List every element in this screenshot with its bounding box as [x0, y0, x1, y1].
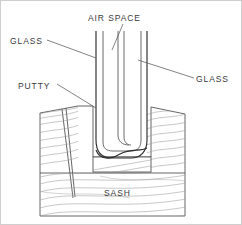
label-glass-left: GLASS	[10, 36, 43, 46]
label-air-space: AIR SPACE	[88, 13, 141, 23]
label-glass-right: GLASS	[196, 74, 229, 84]
glazing-bead	[93, 157, 151, 172]
label-putty: PUTTY	[18, 81, 50, 91]
glass-outer-pane-inner-face	[103, 31, 141, 151]
leader-putty	[57, 84, 96, 108]
leader-glass-right	[138, 60, 194, 78]
leader-glass-left	[47, 40, 96, 58]
label-sash: SASH	[104, 188, 131, 198]
window-sash-diagram: AIR SPACE GLASS GLASS PUTTY SASH	[0, 0, 242, 225]
glass-outer-pane	[96, 31, 147, 158]
glass-inner-pane	[124, 31, 131, 145]
diagram-canvas: AIR SPACE GLASS GLASS PUTTY SASH	[0, 0, 242, 225]
